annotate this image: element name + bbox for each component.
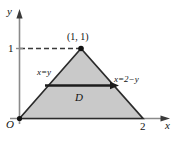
y-tick-label-1: 1: [8, 43, 14, 54]
x-axis-label: x: [165, 120, 170, 131]
right-edge-equation-label: x=2−y: [114, 75, 139, 84]
vertex-dot-origin: [17, 116, 22, 121]
y-axis-label: y: [7, 6, 12, 17]
math-figure-triangular-region: y x O 1 2 (1, 1) x=y x=2−y D: [0, 0, 176, 151]
y-axis: [16, 9, 22, 124]
vertex-coordinate-label: (1, 1): [67, 32, 89, 42]
origin-label: O: [6, 119, 14, 130]
vertex-dot-apex: [78, 46, 84, 52]
region-label-D: D: [75, 92, 83, 103]
x-tick-label-2: 2: [140, 121, 146, 132]
figure-canvas: [0, 0, 176, 151]
left-edge-equation-label: x=y: [37, 68, 51, 77]
